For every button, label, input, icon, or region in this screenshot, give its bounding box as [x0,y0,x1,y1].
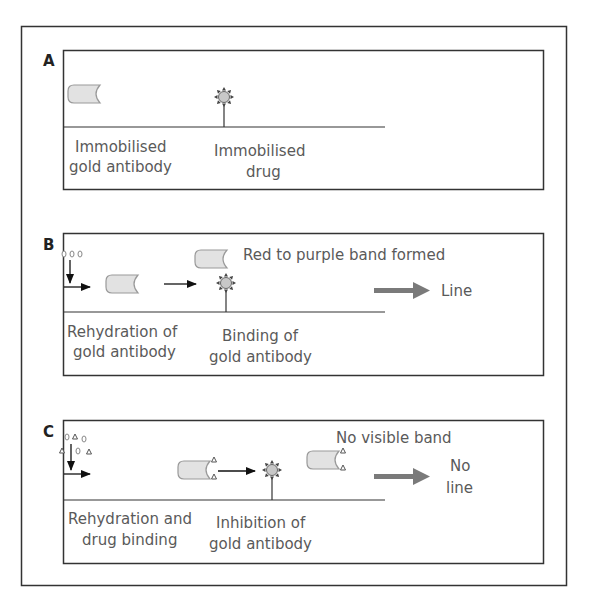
label-rehydration-2: gold antibody [73,343,176,361]
label-rehydration-drug-1: Rehydration and [68,510,192,528]
label-rehydration-1: Rehydration of [67,323,178,341]
drug-bound-antibody-icon [178,461,210,479]
sample-drop-icon [76,448,80,454]
sample-drop-icon [70,251,74,257]
panel-letter-b: B [43,236,54,254]
gold-antibody-icon [106,275,138,293]
sample-drop-icon [78,251,82,257]
label-inhibition-2: gold antibody [209,535,312,553]
sample-drop-icon [82,436,86,442]
label-rehydration-drug-2: drug binding [82,531,177,549]
immobilised-drug-icon [216,273,236,293]
gold-antibody-icon [68,85,100,103]
immobilised-drug-icon [214,87,234,107]
label-no-line-1: No [450,457,470,475]
label-binding-2: gold antibody [209,348,312,366]
label-inhibition-1: Inhibition of [216,514,306,532]
label-band-formed: Red to purple band formed [243,246,445,264]
label-result-line: Line [441,282,472,300]
label-immobilised-drug-1: Immobilised [214,142,305,160]
label-immobilised-antibody-2: gold antibody [69,158,172,176]
lateral-flow-assay-diagram: A Immobilised gold antibody Immobilised … [0,0,590,605]
label-no-line-2: line [446,479,473,497]
label-immobilised-antibody-1: Immobilised [75,138,166,156]
panel-letter-a: A [43,52,55,70]
bound-gold-antibody-icon [195,250,227,268]
panel-letter-c: C [43,423,54,441]
label-binding-1: Binding of [222,327,299,345]
sample-drop-icon [62,251,66,257]
sample-drop-icon [65,434,69,440]
label-immobilised-drug-2: drug [246,163,281,181]
label-no-band: No visible band [336,429,452,447]
immobilised-drug-icon [262,460,282,480]
outer-frame [22,27,567,586]
drug-bound-antibody-icon [307,451,339,469]
